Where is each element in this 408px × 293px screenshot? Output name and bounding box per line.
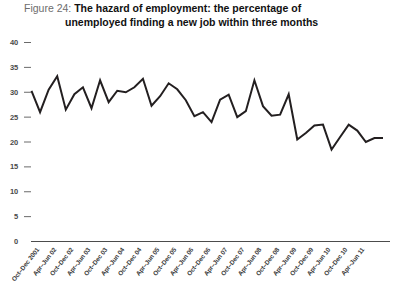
y-axis-tick-label: 15 bbox=[0, 162, 18, 171]
y-axis-tick-label: 35 bbox=[0, 63, 18, 72]
figure-container: Figure 24: The hazard of employment: the… bbox=[0, 0, 408, 293]
y-axis-tick-label: 20 bbox=[0, 138, 18, 147]
y-axis-tick-label: 5 bbox=[0, 212, 18, 221]
y-axis-tick-marks bbox=[24, 43, 31, 217]
y-axis-tick-label: 30 bbox=[0, 88, 18, 97]
y-axis-tick-label: 25 bbox=[0, 113, 18, 122]
y-axis-tick-label: 0 bbox=[0, 237, 18, 246]
data-series-line bbox=[32, 76, 384, 149]
y-axis-tick-label: 40 bbox=[0, 38, 18, 47]
y-axis-tick-label: 10 bbox=[0, 187, 18, 196]
